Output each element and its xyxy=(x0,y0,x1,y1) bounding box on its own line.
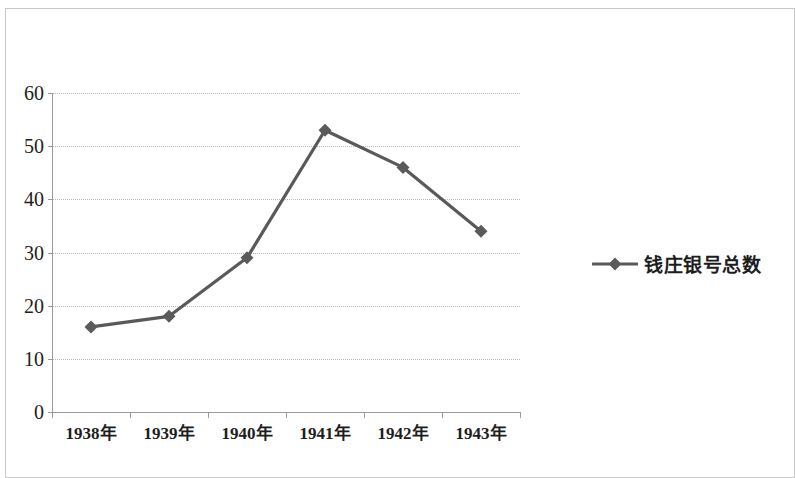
x-axis-tick-mark xyxy=(364,412,365,418)
x-axis-tick-mark xyxy=(208,412,209,418)
x-axis-tick-mark xyxy=(286,412,287,418)
x-axis-tick-label: 1943年 xyxy=(436,425,526,442)
y-axis-tick-label: 40 xyxy=(4,189,44,209)
x-axis-tick-label: 1942年 xyxy=(358,425,448,442)
y-axis-tick-label: 60 xyxy=(4,83,44,103)
x-axis-labels: 1938年 1939年 1940年 1941年 1942年 1943年 xyxy=(52,425,520,453)
x-axis-tick-label: 1941年 xyxy=(280,425,370,442)
x-axis-tick-mark xyxy=(520,412,521,418)
y-axis-tick-label: 50 xyxy=(4,136,44,156)
y-axis-tick-label: 20 xyxy=(4,296,44,316)
legend-line-marker-icon xyxy=(592,254,638,274)
series-markers-qianzhuang xyxy=(85,124,488,334)
x-axis-tick-label: 1940年 xyxy=(202,425,292,442)
legend-label-qianzhuang: 钱庄银号总数 xyxy=(644,250,761,277)
plot-area xyxy=(52,93,520,412)
x-axis-tick-mark xyxy=(52,412,53,418)
x-axis-tick-mark xyxy=(130,412,131,418)
y-axis-tick-label: 30 xyxy=(4,243,44,263)
y-axis-tick-label: 10 xyxy=(4,349,44,369)
y-axis-tick-label: 0 xyxy=(4,402,44,422)
series-line-qianzhuang xyxy=(91,130,481,327)
series-data-point xyxy=(85,320,98,333)
series-plot xyxy=(52,93,520,412)
x-axis-tick-mark xyxy=(442,412,443,418)
x-axis-tick-label: 1938年 xyxy=(46,425,136,442)
y-axis-labels: 60 50 40 30 20 10 0 xyxy=(0,93,44,412)
chart-legend: 钱庄银号总数 xyxy=(592,250,761,277)
x-axis-tick-label: 1939年 xyxy=(124,425,214,442)
